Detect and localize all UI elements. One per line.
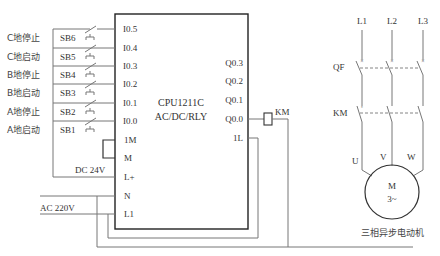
svg-text:M: M bbox=[388, 181, 396, 191]
svg-text:SB5: SB5 bbox=[60, 52, 76, 62]
svg-text:ᶜ: ᶜ bbox=[361, 104, 363, 110]
svg-text:1L: 1L bbox=[233, 133, 243, 143]
svg-text:L1: L1 bbox=[357, 16, 367, 26]
svg-text:×: × bbox=[360, 58, 363, 64]
motor-caption: 三相异步电动机 bbox=[361, 227, 424, 238]
km-coil-label: KM bbox=[275, 107, 290, 117]
dc-supply-label: DC 24V bbox=[75, 165, 106, 175]
svg-text:×: × bbox=[421, 58, 424, 64]
output-terminals: Q0.3 Q0.2 Q0.1 Q0.0 1L bbox=[225, 58, 243, 143]
svg-text:A地停止: A地停止 bbox=[7, 106, 40, 117]
power-terminals: 1M M L+ N L1 bbox=[124, 135, 137, 219]
svg-text:1M: 1M bbox=[124, 135, 137, 145]
svg-text:I0.3: I0.3 bbox=[123, 61, 138, 71]
svg-text:L3: L3 bbox=[418, 16, 428, 26]
svg-text:Q0.1: Q0.1 bbox=[225, 95, 243, 105]
km-coil bbox=[264, 113, 272, 125]
svg-text:I0.1: I0.1 bbox=[123, 98, 137, 108]
svg-text:I0.4: I0.4 bbox=[123, 43, 138, 53]
svg-text:SB2: SB2 bbox=[60, 107, 76, 117]
svg-text:N: N bbox=[124, 191, 131, 201]
svg-text:×: × bbox=[390, 58, 393, 64]
svg-text:C地启动: C地启动 bbox=[7, 51, 40, 62]
svg-text:U: U bbox=[352, 156, 359, 166]
ac-supply-label: AC 220V bbox=[40, 203, 75, 213]
plc-model: CPU1211C bbox=[158, 97, 204, 108]
svg-text:M: M bbox=[124, 153, 132, 163]
input-terminals: I0.5 I0.4 I0.3 I0.2 I0.1 I0.0 bbox=[123, 24, 138, 126]
svg-text:C地停止: C地停止 bbox=[7, 32, 40, 43]
motor bbox=[365, 165, 419, 219]
svg-text:Q0.2: Q0.2 bbox=[225, 76, 243, 86]
plc-type: AC/DC/RLY bbox=[155, 111, 207, 122]
svg-text:Q0.0: Q0.0 bbox=[225, 114, 243, 124]
svg-text:B地启动: B地启动 bbox=[7, 87, 40, 98]
svg-text:3~: 3~ bbox=[387, 194, 397, 204]
svg-text:L+: L+ bbox=[124, 172, 135, 182]
svg-text:I0.0: I0.0 bbox=[123, 116, 138, 126]
svg-text:Q0.3: Q0.3 bbox=[225, 58, 243, 68]
svg-text:QF: QF bbox=[333, 62, 345, 72]
svg-text:L1: L1 bbox=[124, 209, 134, 219]
svg-text:SB6: SB6 bbox=[60, 33, 76, 43]
svg-text:A地启动: A地启动 bbox=[7, 124, 40, 135]
svg-text:KM: KM bbox=[333, 108, 348, 118]
svg-text:SB4: SB4 bbox=[60, 70, 76, 80]
svg-text:SB3: SB3 bbox=[60, 88, 76, 98]
svg-text:I0.2: I0.2 bbox=[123, 79, 137, 89]
motor-circuit: L1 L2 L3 × × × QF ᶜ KM U V W M 3~ bbox=[333, 16, 428, 238]
plc-wiring-diagram: CPU1211C AC/DC/RLY I0.5 I0.4 I0.3 I0.2 I… bbox=[0, 0, 440, 256]
jumper-1m-m bbox=[103, 140, 115, 158]
svg-text:W: W bbox=[407, 152, 416, 162]
svg-text:I0.5: I0.5 bbox=[123, 24, 138, 34]
svg-text:L2: L2 bbox=[387, 16, 397, 26]
svg-text:SB1: SB1 bbox=[60, 125, 76, 135]
svg-text:B地停止: B地停止 bbox=[7, 69, 40, 80]
svg-text:V: V bbox=[380, 152, 387, 162]
